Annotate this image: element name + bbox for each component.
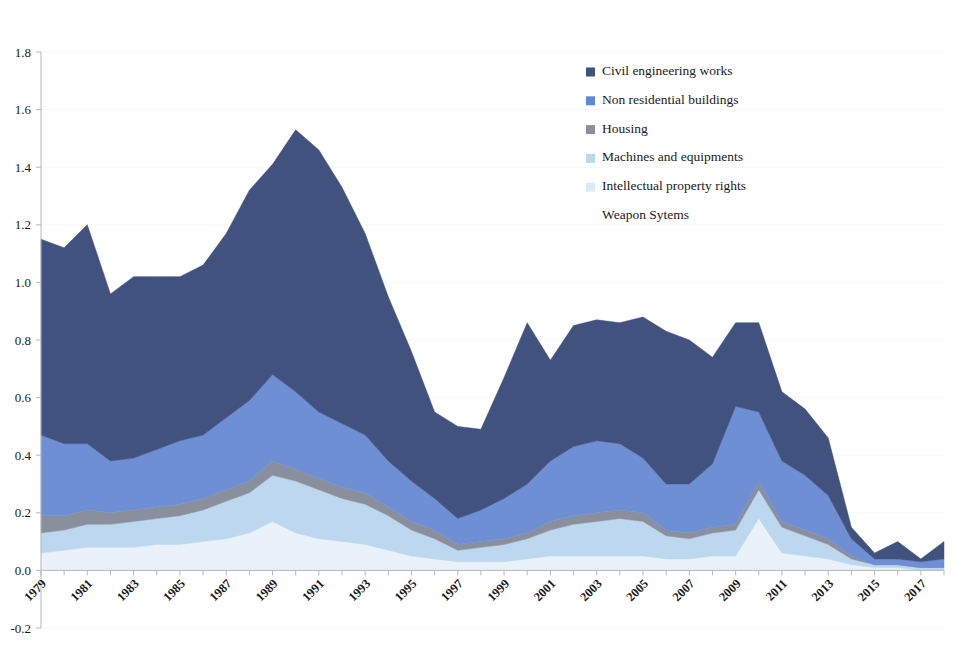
y-tick-label: 1.6 <box>15 102 32 117</box>
y-tick-label: 0.0 <box>15 563 31 578</box>
legend-swatch <box>586 96 595 105</box>
legend-swatch <box>586 125 595 134</box>
y-tick-label: 0.8 <box>15 333 31 348</box>
legend-label: Housing <box>602 121 648 136</box>
y-tick-label: -0.2 <box>10 621 31 636</box>
legend-label: Civil engineering works <box>602 63 732 78</box>
y-tick-label: 0.6 <box>15 390 32 405</box>
y-axis-ticks: -0.20.00.20.40.60.81.01.21.41.61.8 <box>10 45 41 636</box>
legend-swatch <box>586 154 595 163</box>
y-tick-label: 1.8 <box>15 45 31 60</box>
y-tick-label: 0.2 <box>15 505 31 520</box>
legend-label: Intellectual property rights <box>602 178 746 193</box>
y-tick-label: 1.4 <box>15 160 32 175</box>
legend-label: Weapon Sytems <box>602 207 689 222</box>
y-tick-label: 1.2 <box>15 217 31 232</box>
y-tick-label: 0.4 <box>15 448 32 463</box>
chart-canvas: -0.20.00.20.40.60.81.01.21.41.61.8 19791… <box>0 0 970 650</box>
stacked-area-chart: -0.20.00.20.40.60.81.01.21.41.61.8 19791… <box>0 0 970 650</box>
legend-swatch <box>586 68 595 77</box>
legend-label: Non residential buildings <box>602 92 738 107</box>
legend-label: Machines and equipments <box>602 149 743 164</box>
y-tick-label: 1.0 <box>15 275 31 290</box>
legend-swatch <box>586 183 595 192</box>
